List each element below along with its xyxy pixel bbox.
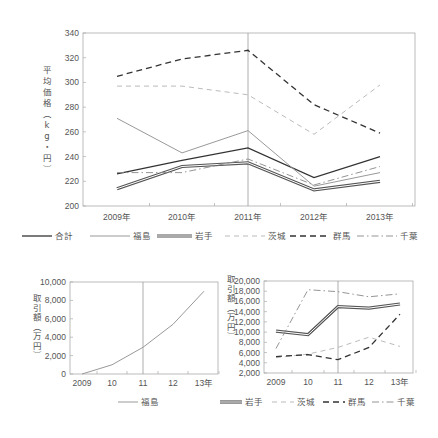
y-axis-label: ︵	[227, 303, 236, 313]
y-tick-label: 0	[61, 369, 66, 379]
x-tick-label: 12	[364, 377, 374, 387]
y-tick-label: 280	[65, 102, 79, 112]
y-axis-label: k	[45, 120, 50, 130]
y-axis-label: 取	[227, 274, 236, 284]
y-axis-label: ︵	[43, 109, 52, 119]
x-tick-label: 2013年	[366, 212, 394, 222]
y-tick-label: 340	[65, 28, 79, 38]
plot-frame	[70, 282, 218, 374]
svg-text:群馬: 群馬	[348, 397, 366, 407]
y-tick-label: 4,000	[239, 358, 261, 368]
y-tick-label: 300	[65, 77, 79, 87]
y-axis-label: ︶	[227, 331, 236, 341]
y-tick-label: 6,000	[45, 314, 67, 324]
legend-item: 岩手	[157, 231, 213, 241]
y-axis-label: 平	[43, 65, 52, 75]
svg-text:茨城: 茨城	[297, 397, 315, 407]
y-axis-label: 均	[43, 76, 52, 86]
chart-bottom-right: 2,0004,0006,0008,00010,00012,00014,00016…	[220, 274, 416, 407]
legend-item: 千葉	[372, 397, 415, 407]
y-tick-label: 220	[65, 176, 79, 186]
svg-text:茨城: 茨城	[268, 231, 286, 241]
y-axis-label: 万	[33, 331, 42, 341]
x-tick-label: 13年	[195, 378, 213, 388]
chart-top: 2002202402602803003203402009年2010年2011年2…	[22, 28, 418, 241]
y-tick-label: 8,000	[239, 337, 261, 347]
legend-item: 群馬	[290, 231, 351, 241]
y-tick-label: 2,000	[239, 368, 261, 378]
y-tick-label: 2,000	[45, 351, 67, 361]
y-tick-label: 16,000	[234, 296, 260, 306]
y-tick-label: 200	[65, 201, 79, 211]
y-axis-label: 引	[227, 284, 236, 294]
y-axis-label: ︶	[33, 350, 42, 360]
y-axis-label: 円	[227, 322, 236, 332]
x-tick-label: 2010年	[168, 212, 196, 222]
y-axis-label: ︶	[43, 164, 52, 174]
y-tick-label: 14,000	[234, 307, 260, 317]
y-axis-label: 円	[33, 341, 42, 351]
svg-text:千葉: 千葉	[397, 397, 415, 407]
y-axis-label: 円	[43, 153, 52, 163]
plot-frame	[83, 33, 415, 206]
x-tick-label: 12	[168, 378, 178, 388]
y-tick-label: 12,000	[234, 317, 260, 327]
x-tick-label: 2012年	[300, 212, 328, 222]
svg-text:岩手: 岩手	[245, 397, 263, 407]
y-axis-label: g	[44, 131, 49, 141]
svg-text:群馬: 群馬	[333, 231, 351, 241]
x-tick-label: 10	[303, 377, 313, 387]
x-tick-label: 10	[107, 378, 117, 388]
legend-item: 岩手	[220, 397, 263, 407]
legend-item: 茨城	[272, 397, 315, 407]
y-tick-label: 6,000	[239, 348, 261, 358]
legend-item: 群馬	[323, 397, 366, 407]
legend-item: 福島	[90, 231, 151, 241]
y-axis-label: 万	[227, 312, 236, 322]
y-axis-label: 格	[43, 98, 52, 108]
x-tick-label: 2009年	[103, 212, 131, 222]
series-岩手	[117, 163, 380, 190]
svg-text:福島: 福島	[133, 231, 151, 241]
x-tick-label: 2009	[267, 377, 286, 387]
legend-item: 茨城	[225, 231, 286, 241]
x-tick-label: 13年	[391, 377, 409, 387]
y-tick-label: 10,000	[40, 277, 66, 287]
series-茨城	[117, 85, 380, 134]
x-tick-label: 2009	[73, 378, 92, 388]
y-axis-label: ︵	[33, 322, 42, 332]
y-axis-label: 価	[43, 87, 52, 97]
chart-bottom-left: 02,0004,0006,0008,00010,000200910111213年…	[33, 277, 220, 407]
legend-item: 福島	[118, 397, 159, 407]
y-axis-label: 額	[227, 293, 236, 303]
svg-text:福島: 福島	[141, 397, 159, 407]
y-tick-label: 240	[65, 152, 79, 162]
y-axis-label: 額	[33, 312, 42, 322]
svg-text:千葉: 千葉	[400, 231, 418, 241]
x-tick-label: 11	[139, 378, 148, 388]
y-axis-label: 引	[33, 303, 42, 313]
y-axis-label: 取	[33, 293, 42, 303]
svg-text:岩手: 岩手	[195, 231, 213, 241]
y-tick-label: 320	[65, 53, 79, 63]
svg-text:合計: 合計	[55, 231, 73, 241]
series-群馬	[117, 50, 380, 133]
y-tick-label: 4,000	[45, 332, 67, 342]
y-tick-label: 20,000	[234, 276, 260, 286]
legend-item: 合計	[22, 231, 73, 241]
x-tick-label: 2011年	[234, 212, 261, 222]
y-tick-label: 10,000	[234, 327, 260, 337]
x-tick-label: 11	[334, 377, 343, 387]
legend-item: 千葉	[357, 231, 418, 241]
y-tick-label: 8,000	[45, 295, 67, 305]
figure-canvas: 2002202402602803003203402009年2010年2011年2…	[0, 0, 438, 438]
y-tick-label: 260	[65, 127, 79, 137]
y-axis-label: ・	[43, 142, 52, 152]
y-tick-label: 18,000	[234, 286, 260, 296]
